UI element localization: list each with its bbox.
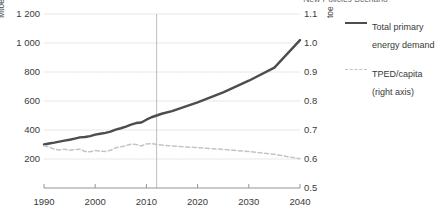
legend-item-total-primary-energy-demand: Total primary energy demand bbox=[345, 16, 437, 52]
chart-container: New Policies Scenario Mtoe toe 200400600… bbox=[0, 0, 437, 224]
series-line-tped-capita bbox=[44, 144, 300, 159]
legend-line-swatch-solid-icon bbox=[345, 22, 367, 24]
chart-legend: Total primary energy demand TPED/capita … bbox=[345, 16, 437, 110]
legend-line-swatch-dashed-icon bbox=[345, 69, 367, 70]
legend-item-label: Total primary energy demand bbox=[372, 22, 435, 50]
legend-item-label: TPED/capita (right axis) bbox=[372, 69, 423, 97]
legend-item-tped-per-capita: TPED/capita (right axis) bbox=[345, 63, 437, 99]
series-line-total-primary-energy-demand bbox=[44, 40, 300, 144]
